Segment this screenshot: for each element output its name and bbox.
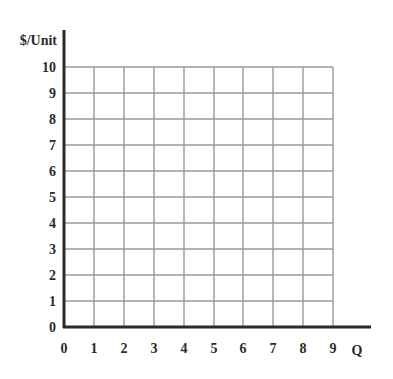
x-tick-label-1: 1 — [91, 341, 98, 356]
x-tick-label-3: 3 — [151, 341, 158, 356]
y-tick-label-1: 1 — [49, 294, 56, 309]
x-tick-labels: 0 1 2 3 4 5 6 7 8 9 — [61, 341, 337, 356]
y-tick-label-2: 2 — [49, 268, 56, 283]
y-tick-label-9: 9 — [49, 86, 56, 101]
x-tick-label-4: 4 — [181, 341, 188, 356]
y-tick-label-4: 4 — [49, 216, 56, 231]
y-tick-label-10: 10 — [42, 60, 56, 75]
x-tick-label-7: 7 — [270, 341, 277, 356]
y-tick-label-5: 5 — [49, 190, 56, 205]
y-tick-labels: 10 9 8 7 6 5 4 3 2 1 0 — [42, 60, 56, 335]
economics-grid-chart: $/Unit Q 10 9 8 7 6 5 4 3 2 1 0 0 1 2 3 … — [0, 0, 393, 379]
y-axis-title: $/Unit — [20, 33, 58, 48]
x-tick-label-8: 8 — [300, 341, 307, 356]
y-tick-label-7: 7 — [49, 138, 56, 153]
y-tick-label-6: 6 — [49, 164, 56, 179]
x-tick-label-6: 6 — [240, 341, 247, 356]
x-axis-title: Q — [352, 343, 363, 358]
y-tick-label-0: 0 — [49, 320, 56, 335]
x-tick-label-2: 2 — [121, 341, 128, 356]
x-tick-label-9: 9 — [330, 341, 337, 356]
x-tick-label-5: 5 — [211, 341, 218, 356]
y-tick-label-8: 8 — [49, 112, 56, 127]
y-tick-label-3: 3 — [49, 242, 56, 257]
x-tick-label-0: 0 — [61, 341, 68, 356]
chart-container: $/Unit Q 10 9 8 7 6 5 4 3 2 1 0 0 1 2 3 … — [0, 0, 393, 379]
